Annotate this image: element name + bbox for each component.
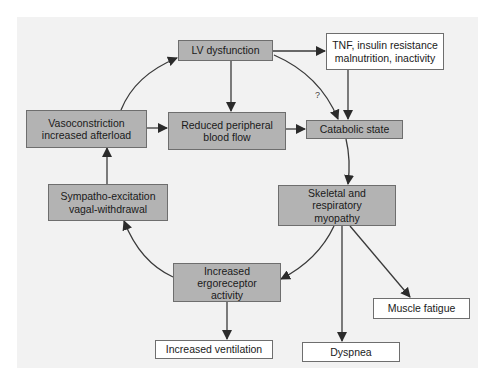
node-tnf-insulin-resistance: TNF, insulin resistance malnutrition, in…	[326, 33, 444, 70]
node-label-line2: increased afterload	[42, 129, 131, 142]
node-label-line1: Reduced peripheral	[181, 119, 273, 132]
node-vasoconstriction: Vasoconstriction increased afterload	[26, 110, 147, 148]
node-label: Catabolic state	[320, 123, 389, 136]
node-label: Muscle fatigue	[388, 302, 456, 315]
node-increased-ventilation: Increased ventilation	[155, 340, 273, 359]
node-catabolic-state: Catabolic state	[306, 120, 403, 139]
node-label: Increased ventilation	[166, 343, 262, 356]
node-label-line2: myopathy	[314, 212, 360, 225]
node-muscle-fatigue: Muscle fatigue	[373, 298, 470, 319]
node-label-line1: Skeletal and respiratory	[282, 187, 392, 212]
arrow-vaso-to-lv	[121, 58, 177, 110]
arrow-catabolic-to-myopathy	[346, 139, 349, 184]
node-label-line1: Sympatho-excitation	[60, 190, 155, 203]
node-label-line2: malnutrition, inactivity	[335, 52, 435, 65]
node-increased-ergoreceptor-activity: Increased ergoreceptor activity	[173, 263, 281, 302]
node-label: LV dysfunction	[191, 44, 259, 57]
uncertain-link-label: ?	[315, 90, 320, 100]
node-label-line1: Increased	[204, 265, 250, 277]
node-label-line2: vagal-withdrawal	[69, 203, 147, 216]
node-skeletal-respiratory-myopathy: Skeletal and respiratory myopathy	[278, 185, 396, 226]
node-label: Dyspnea	[330, 346, 371, 359]
node-label-line1: TNF, insulin resistance	[332, 39, 438, 52]
arrow-myopathy-to-ergoreceptor	[281, 226, 334, 279]
node-label-line2: blood flow	[203, 131, 250, 144]
node-reduced-peripheral-blood-flow: Reduced peripheral blood flow	[168, 112, 286, 150]
arrow-myopathy-to-muscle-fatigue	[350, 226, 410, 297]
arrow-ergoreceptor-to-sympatho	[124, 221, 173, 277]
node-dyspnea: Dyspnea	[302, 342, 400, 362]
node-label-line2: ergoreceptor	[197, 277, 257, 289]
node-lv-dysfunction: LV dysfunction	[178, 40, 273, 61]
node-label-line1: Vasoconstriction	[48, 117, 124, 130]
node-sympatho-excitation: Sympatho-excitation vagal-withdrawal	[48, 184, 168, 221]
node-label-line3: activity	[211, 289, 243, 301]
